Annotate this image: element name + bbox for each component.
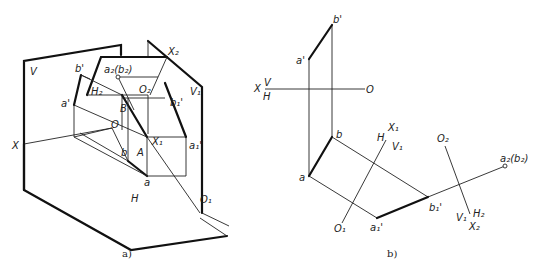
caption-b: b) [387,248,397,259]
label-a1-prime: a₁' [370,222,383,233]
x2-axis [445,146,470,214]
segment-ab [309,137,332,176]
panel-a-pictorial: V b' a' a₂(b₂) H₂ O₂ X₂ V₁ b₁' B O X X₁ … [11,41,229,259]
segment-a-prime-b-prime [74,75,81,105]
label-b-prime: b' [75,63,84,74]
x2-axis [150,57,167,95]
label-O: O [111,119,119,130]
caption-a: a) [122,248,132,259]
x1-axis [342,140,386,223]
label-B: B [120,103,127,114]
label-a: a [299,172,305,183]
panel-b-orthographic: b' a' X V H O b a X₁ H V₁ O₁ a₁' b₁' O₂ … [253,14,528,259]
label-a1-prime: a₁' [189,140,202,151]
label-A: A [136,147,144,158]
label-H2: H₂ [91,86,103,97]
projector [81,75,90,79]
label-O1: O₁ [200,194,212,205]
label-b: b [336,129,342,140]
label-X1: X₁ [151,136,163,147]
label-a2b2: a₂(b₂) [500,153,528,164]
label-X2: X₂ [167,46,179,57]
label-a-prime: a' [296,55,305,66]
label-a2b2: a₂(b₂) [104,64,132,75]
projector [74,128,112,137]
label-b1-prime: b₁' [170,97,183,108]
label-H: H [263,91,271,102]
projector-a-a1 [309,176,377,218]
label-X: X [253,83,262,94]
h-plane-outline [24,190,227,250]
label-V: V [264,77,272,88]
v1-plane-outline [148,41,202,213]
label-O1: O₁ [334,223,346,234]
label-a: a [144,177,150,188]
segment-a-prime-b-prime [309,25,332,59]
point-a2-b2 [503,164,507,168]
label-V1: V₁ [392,141,403,152]
point-a2-b2 [116,75,120,79]
x-axis [24,128,112,144]
label-V1: V₁ [190,86,201,97]
projection-diagram: V b' a' a₂(b₂) H₂ O₂ X₂ V₁ b₁' B O X X₁ … [0,0,536,270]
projector-b-b1 [332,137,428,197]
label-O: O [366,84,374,95]
h-plane-edge [200,218,227,236]
label-X1: X₁ [387,122,399,133]
segment-ab [128,161,147,176]
segment-AB [122,95,147,137]
segment-b1-a1-prime [165,83,186,137]
label-b1-prime: b₁' [429,202,442,213]
o1-edge [202,213,229,226]
label-H: H [131,193,139,204]
label-X2: X₂ [468,221,480,232]
label-V1-axis2: V₁ [456,212,467,223]
label-b-prime: b' [333,14,342,25]
label-a-prime: a' [61,98,70,109]
label-V: V [30,66,38,77]
label-b: b [121,147,127,158]
label-X: X [11,140,20,151]
label-O2: O₂ [437,133,449,144]
projector-b1-a2 [428,166,505,197]
label-H-axis1: H [377,132,385,143]
label-H2: H₂ [473,208,485,219]
segment-a1-b1-prime [377,197,428,218]
label-O2: O₂ [139,84,151,95]
